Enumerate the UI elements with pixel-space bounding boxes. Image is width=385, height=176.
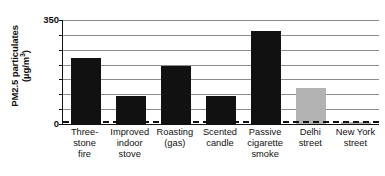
y-axis-title-line2: (µg/m3) xyxy=(20,25,31,107)
x-label-line: candle xyxy=(197,138,242,149)
y-axis-unit-exponent: 3 xyxy=(19,53,26,57)
bar-scented-candle xyxy=(206,96,236,124)
x-label-line: fire xyxy=(62,149,107,160)
x-label-line: New York xyxy=(333,127,378,138)
x-label-line: Roasting xyxy=(152,127,197,138)
y-axis-tick-labels: 350 0 xyxy=(36,0,59,132)
x-label-line: Scented xyxy=(197,127,242,138)
chart-container: PM2.5 particulates (µg/m3) 350 0 Three-s… xyxy=(0,0,385,176)
guideline-dashed-line xyxy=(63,121,379,123)
y-tick-label-350: 350 xyxy=(43,15,59,24)
plot-area xyxy=(62,20,378,124)
x-label-line: (gas) xyxy=(152,138,197,149)
y-axis-unit-open: (µg/m xyxy=(20,57,31,82)
bar-improved-indoor-stove xyxy=(116,96,146,124)
bar-passive-cigarette-smoke xyxy=(251,31,281,124)
y-axis-unit-close: ) xyxy=(20,50,31,53)
y-axis-title-line1: PM2.5 particulates xyxy=(9,25,20,107)
x-label-line: Three- xyxy=(62,127,107,138)
x-label-line: Delhi xyxy=(288,127,333,138)
y-axis-title-text: PM2.5 particulates (µg/m3) xyxy=(9,25,31,107)
x-label-roasting-gas-: Roasting(gas) xyxy=(152,127,197,149)
x-label-line: cigarette xyxy=(243,138,288,149)
x-label-line: Passive xyxy=(243,127,288,138)
x-label-improved-indoor-stove: Improvedindoorstove xyxy=(107,127,152,161)
bars-layer xyxy=(63,20,379,124)
x-axis-line xyxy=(63,124,379,125)
x-label-scented-candle: Scentedcandle xyxy=(197,127,242,149)
x-label-line: street xyxy=(333,138,378,149)
x-label-line: Improved xyxy=(107,127,152,138)
x-label-three-stone-fire: Three-stonefire xyxy=(62,127,107,161)
x-label-line: stone xyxy=(62,138,107,149)
bar-roasting-gas- xyxy=(161,66,191,124)
x-label-line: stove xyxy=(107,149,152,160)
x-label-delhi-street: Delhistreet xyxy=(288,127,333,149)
x-axis-category-labels: Three-stonefireImprovedindoorstoveRoasti… xyxy=(62,127,378,176)
bar-three-stone-fire xyxy=(71,58,101,124)
x-label-passive-cigarette-smoke: Passivecigarettesmoke xyxy=(243,127,288,161)
bar-delhi-street xyxy=(296,88,326,124)
x-label-new-york-street: New Yorkstreet xyxy=(333,127,378,149)
x-label-line: street xyxy=(288,138,333,149)
x-label-line: indoor xyxy=(107,138,152,149)
y-axis-title: PM2.5 particulates (µg/m3) xyxy=(0,0,40,132)
x-label-line: smoke xyxy=(243,149,288,160)
